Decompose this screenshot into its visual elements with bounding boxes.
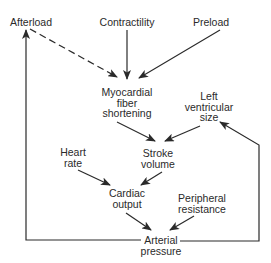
node-myocardial-fiber-shortening: Myocardial fiber shortening: [102, 87, 153, 119]
node-heartrate-line2: rate: [60, 158, 86, 169]
node-peripheral-resistance: Peripheral resistance: [178, 193, 226, 214]
edge-preload-myocardial: [139, 30, 220, 78]
edge-myocardial-stroke: [117, 122, 155, 141]
node-heart-rate: Heart rate: [60, 147, 86, 168]
node-cardiac-line2: output: [109, 199, 145, 210]
diagram-arrows: [0, 0, 271, 263]
edge-arterial-lvsize: [180, 122, 259, 241]
node-myocardial-line3: shortening: [102, 108, 153, 119]
node-heartrate-line1: Heart: [60, 147, 86, 158]
edge-stroke-cardiac: [141, 172, 162, 185]
node-cardiac-line1: Cardiac: [109, 188, 145, 199]
node-stroke-volume: Stroke volume: [141, 148, 175, 169]
node-preload-text: Preload: [193, 16, 229, 28]
edge-cardiac-arterial: [126, 213, 151, 230]
edge-peripheral-arterial: [170, 216, 194, 230]
node-stroke-line1: Stroke: [141, 148, 175, 159]
node-lvsize-line3: size: [185, 112, 233, 123]
node-peripheral-line1: Peripheral: [178, 193, 226, 204]
node-arterial-line1: Arterial: [141, 235, 182, 246]
node-myocardial-line1: Myocardial: [102, 87, 153, 98]
node-lvsize-line1: Left: [185, 91, 233, 102]
edge-lvsize-stroke: [165, 126, 200, 141]
node-left-ventricular-size: Left ventricular size: [185, 91, 233, 123]
node-arterial-line2: pressure: [141, 246, 182, 257]
edge-afterload-myocardial: [30, 29, 117, 77]
node-stroke-line2: volume: [141, 159, 175, 170]
node-cardiac-output: Cardiac output: [109, 188, 145, 209]
node-preload: Preload: [193, 17, 229, 28]
node-arterial-pressure: Arterial pressure: [141, 235, 182, 256]
node-contractility-text: Contractility: [100, 16, 155, 28]
edge-heartrate-cardiac: [78, 170, 110, 185]
node-afterload-text: Afterload: [10, 16, 52, 28]
node-contractility: Contractility: [100, 17, 155, 28]
node-peripheral-line2: resistance: [178, 204, 226, 215]
node-afterload: Afterload: [10, 17, 52, 28]
